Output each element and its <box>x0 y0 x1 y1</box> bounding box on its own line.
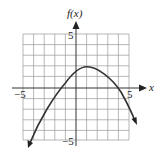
chart: f(x) x −5 5 5 −5 <box>0 0 163 155</box>
y-axis-label: f(x) <box>67 7 83 20</box>
parabola-curve <box>29 67 135 144</box>
x-max-label: 5 <box>127 88 133 100</box>
x-axis-arrow-icon <box>139 85 147 92</box>
axes <box>12 28 142 146</box>
y-axis-arrow-icon <box>73 21 80 29</box>
y-max-label: 5 <box>68 29 74 41</box>
y-min-label: −5 <box>62 135 74 147</box>
x-axis-label: x <box>148 81 154 93</box>
curve-right-arrow-icon <box>132 117 138 125</box>
x-min-label: −5 <box>14 88 26 100</box>
